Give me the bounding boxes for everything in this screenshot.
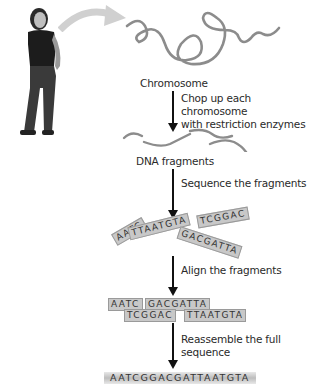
fragment-tcggac: TCGGAC [196, 207, 249, 229]
fragment-gacgatta: GACGATTA [177, 226, 243, 259]
aligned-fragment-ttaatgta: TTAATGTA [184, 309, 246, 322]
arrow-down-icon [172, 169, 174, 211]
stage-label-dna-fragments: DNA fragments [136, 155, 214, 167]
step-text: Chop up each chromosome [181, 92, 315, 118]
step-text: Reassemble the full [181, 333, 281, 346]
dna-fragments-icon [120, 126, 250, 152]
full-sequence: AATCGGACGATTAATGTA [104, 372, 256, 384]
step-text: Sequence the fragments [181, 177, 306, 190]
arrow-down-icon [172, 91, 174, 124]
aligned-fragment-tcggac: TCGGAC [124, 309, 176, 322]
arrow-down-icon [172, 323, 174, 361]
step-sequence: Sequence the fragments [181, 177, 306, 190]
step-align: Align the fragments [181, 264, 282, 277]
step-reassemble: Reassemble the full sequence [181, 333, 281, 359]
step-text: sequence [181, 346, 281, 359]
curved-arrow-icon [58, 4, 128, 32]
arrow-down-icon [172, 256, 174, 288]
stage-label-chromosome: Chromosome [140, 77, 208, 89]
step-text: Align the fragments [181, 264, 282, 277]
chromosome-icon [125, 4, 285, 70]
